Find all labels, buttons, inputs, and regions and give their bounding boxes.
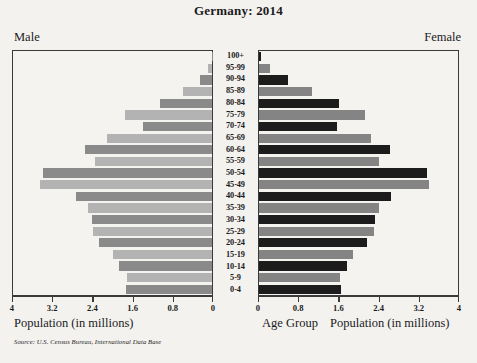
female-row	[259, 272, 458, 284]
female-bar	[259, 168, 427, 177]
male-bar	[208, 64, 212, 73]
male-bar	[183, 87, 212, 96]
axis-tick-label: 0.8	[167, 303, 178, 313]
source-note: Source: U.S. Census Bureau, Internationa…	[14, 338, 161, 345]
female-row	[259, 121, 458, 133]
female-x-axis	[258, 296, 459, 303]
male-bar	[125, 110, 212, 119]
male-bar	[113, 250, 212, 259]
age-group-label: 65-69	[213, 132, 258, 144]
age-group-caption: Age Group	[262, 316, 318, 331]
male-bar	[212, 52, 213, 61]
axis-tick	[12, 296, 13, 302]
male-bar	[88, 203, 212, 212]
female-bar	[259, 122, 337, 131]
axis-tick-label: 3.2	[47, 303, 58, 313]
female-bar	[259, 64, 270, 73]
male-row	[13, 237, 212, 249]
female-row	[259, 167, 458, 179]
female-row	[259, 249, 458, 261]
male-row	[13, 109, 212, 121]
axis-tick-label: 1.6	[333, 303, 344, 313]
age-group-label: 30-34	[213, 214, 258, 226]
female-bar-rows	[259, 51, 458, 295]
male-bar	[76, 192, 212, 201]
female-axis-caption: Population (in millions)	[330, 316, 449, 331]
age-group-label: 55-59	[213, 155, 258, 167]
age-group-label: 15-19	[213, 249, 258, 261]
axis-tick-label: 3.2	[413, 303, 424, 313]
female-bar	[259, 99, 339, 108]
female-bar	[259, 261, 347, 270]
male-bar	[107, 134, 212, 143]
female-side-label: Female	[424, 30, 461, 45]
female-row	[259, 63, 458, 75]
age-group-label: 100+	[213, 50, 258, 62]
male-row	[13, 272, 212, 284]
female-bar	[259, 273, 340, 282]
age-group-label: 0-4	[213, 284, 258, 296]
age-group-label: 50-54	[213, 167, 258, 179]
axis-tick-label: 0	[256, 303, 260, 313]
axis-tick	[133, 296, 134, 302]
female-bar	[259, 52, 261, 61]
male-bar	[43, 168, 212, 177]
female-row	[259, 132, 458, 144]
age-group-label: 80-84	[213, 97, 258, 109]
female-bar	[259, 110, 365, 119]
male-bar	[126, 285, 212, 294]
male-row	[13, 179, 212, 191]
age-group-label: 25-29	[213, 226, 258, 238]
age-group-axis: 100+95-9990-9485-8980-8475-7970-7465-696…	[213, 50, 258, 296]
axis-tick	[258, 296, 259, 302]
female-row	[259, 179, 458, 191]
age-group-label: 70-74	[213, 120, 258, 132]
male-bar-rows	[13, 51, 212, 295]
male-row	[13, 121, 212, 133]
female-bar	[259, 238, 367, 247]
female-row	[259, 202, 458, 214]
axis-tick	[92, 296, 93, 302]
male-row	[13, 284, 212, 296]
axis-tick-label: 4	[10, 303, 14, 313]
female-bar	[259, 192, 391, 201]
male-row	[13, 260, 212, 272]
population-pyramid-page: Germany: 2014 Male Female 100+95-9990-94…	[0, 0, 477, 363]
male-x-axis	[12, 296, 213, 303]
male-row	[13, 86, 212, 98]
axis-tick-label: 4	[457, 303, 461, 313]
male-bar	[160, 99, 212, 108]
male-axis-caption: Population (in millions)	[14, 316, 133, 331]
page-title: Germany: 2014	[0, 3, 477, 19]
male-row	[13, 156, 212, 168]
female-bar	[259, 87, 312, 96]
male-row	[13, 214, 212, 226]
male-row	[13, 74, 212, 86]
female-row	[259, 109, 458, 121]
female-bar	[259, 227, 374, 236]
male-row	[13, 191, 212, 203]
age-group-label: 45-49	[213, 179, 258, 191]
age-group-label: 20-24	[213, 237, 258, 249]
female-plot-panel	[258, 50, 459, 296]
female-axis-line	[258, 296, 459, 297]
age-group-label: 5-9	[213, 272, 258, 284]
male-row	[13, 132, 212, 144]
axis-tick	[52, 296, 53, 302]
male-bar	[127, 273, 212, 282]
female-bar	[259, 75, 288, 84]
female-bar	[259, 203, 379, 212]
female-x-tick-labels: 00.81.62.43.24	[258, 303, 459, 317]
female-row	[259, 225, 458, 237]
male-bar	[95, 157, 212, 166]
axis-tick-label: 2.4	[373, 303, 384, 313]
female-bar	[259, 215, 375, 224]
axis-tick	[458, 296, 459, 302]
axis-tick-label: 0.8	[293, 303, 304, 313]
axis-tick	[338, 296, 339, 302]
female-row	[259, 191, 458, 203]
female-row	[259, 214, 458, 226]
male-x-tick-labels: 43.22.41.60.80	[12, 303, 213, 317]
axis-tick	[379, 296, 380, 302]
male-bar	[200, 75, 212, 84]
